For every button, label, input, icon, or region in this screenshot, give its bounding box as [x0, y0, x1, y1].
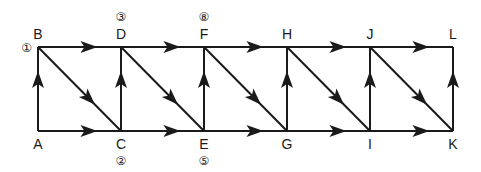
- node-label-E: E: [199, 136, 208, 152]
- node-label-L: L: [449, 26, 457, 42]
- edge-E-F: [198, 47, 210, 131]
- edge-line: [121, 47, 204, 131]
- edge-H-J: [287, 41, 370, 53]
- edge-line: [287, 47, 370, 131]
- edge-G-I: [287, 125, 370, 137]
- edges-layer: [32, 41, 459, 137]
- graph-canvas: AB①C②D③E⑤F⑧GHIJKL: [0, 0, 481, 172]
- node-label-C: C: [116, 136, 126, 152]
- node-label-G: G: [282, 136, 293, 152]
- graph-diagram: AB①C②D③E⑤F⑧GHIJKL: [0, 0, 481, 172]
- edge-H-I: [287, 47, 370, 131]
- edge-A-C: [38, 125, 121, 137]
- order-label-C: ②: [116, 154, 127, 168]
- node-label-H: H: [282, 26, 292, 42]
- node-label-A: A: [33, 136, 43, 152]
- order-label-B: ①: [21, 41, 32, 55]
- node-label-F: F: [200, 26, 209, 42]
- edge-D-E: [121, 47, 204, 131]
- edge-B-D: [38, 41, 121, 53]
- edge-K-L: [447, 47, 459, 131]
- edge-I-K: [370, 125, 453, 137]
- node-label-B: B: [33, 26, 42, 42]
- edge-I-J: [364, 47, 376, 131]
- edge-A-B: [32, 47, 44, 131]
- edge-D-F: [121, 41, 204, 53]
- edge-B-C: [38, 47, 121, 131]
- order-label-D: ③: [116, 10, 127, 24]
- edge-line: [38, 47, 121, 131]
- edge-F-G: [204, 47, 287, 131]
- edge-J-L: [370, 41, 453, 53]
- order-label-F: ⑧: [199, 10, 210, 24]
- node-label-K: K: [448, 136, 458, 152]
- edge-line: [370, 47, 453, 131]
- edge-C-D: [115, 47, 127, 131]
- edge-J-K: [370, 47, 453, 131]
- node-label-D: D: [116, 26, 126, 42]
- edge-E-G: [204, 125, 287, 137]
- labels-layer: AB①C②D③E⑤F⑧GHIJKL: [21, 10, 458, 168]
- edge-F-H: [204, 41, 287, 53]
- edge-line: [204, 47, 287, 131]
- order-label-E: ⑤: [199, 154, 210, 168]
- edge-G-H: [281, 47, 293, 131]
- edge-C-E: [121, 125, 204, 137]
- node-label-J: J: [367, 26, 374, 42]
- node-label-I: I: [368, 136, 372, 152]
